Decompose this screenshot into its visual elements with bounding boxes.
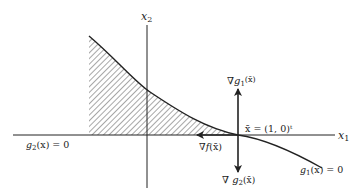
grad-g1-label: ∇g1(x̄) [227,75,256,88]
grad-f-label: ∇f(x̄) [199,141,222,152]
feasible-region-hatched [89,36,238,135]
g1-curve-right [238,135,322,168]
g2-constraint-label: g2(x) = 0 [26,139,69,152]
grad-g2-label: ∇ g2(x̄) [222,174,255,187]
constraint-diagram: x2 x1 x̄ = (1, 0)ᵗ ∇g1(x̄) ∇ g2(x̄) ∇f(x… [0,0,357,196]
x2-axis-label: x2 [141,10,152,24]
x1-axis-label: x1 [338,129,349,143]
g1-constraint-label: g1(x) = 0 [300,164,343,177]
point-x-bar-label: x̄ = (1, 0)ᵗ [245,123,293,134]
